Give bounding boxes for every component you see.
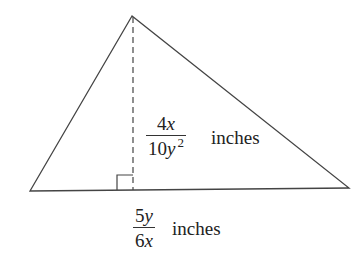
- height-unit: inches: [211, 127, 260, 149]
- height-den-exp: 2: [177, 135, 184, 150]
- base-denominator: 6x: [133, 230, 155, 251]
- base-unit: inches: [172, 218, 221, 240]
- base-fraction-bar: [133, 227, 155, 228]
- height-den-var: y: [167, 138, 175, 159]
- height-num-var: x: [167, 113, 175, 134]
- height-fraction: 4x 10y2: [146, 113, 186, 159]
- base-numerator: 5y: [133, 205, 155, 226]
- base-den-coef: 6: [135, 230, 145, 251]
- height-num-coef: 4: [157, 113, 167, 134]
- height-den-coef: 10: [148, 138, 167, 159]
- base-fraction: 5y 6x: [133, 205, 155, 251]
- triangle: [30, 16, 349, 191]
- base-den-var: x: [145, 230, 153, 251]
- base-num-var: y: [145, 205, 153, 226]
- height-numerator: 4x: [155, 113, 177, 134]
- height-denominator: 10y2: [146, 138, 186, 159]
- base-num-coef: 5: [135, 205, 145, 226]
- right-angle-marker: [117, 175, 133, 190]
